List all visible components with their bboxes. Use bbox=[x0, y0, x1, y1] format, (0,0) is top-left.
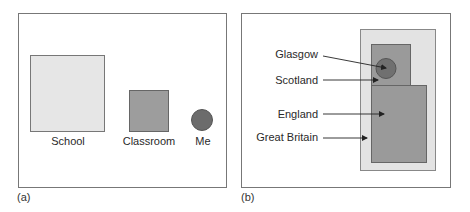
panel-b: Glasgow Scotland England Great Britain (… bbox=[241, 14, 451, 204]
me-circle bbox=[192, 110, 213, 131]
classroom-label: Classroom bbox=[123, 135, 176, 147]
great-britain-label: Great Britain bbox=[256, 131, 318, 143]
panel-a: School Classroom Me (a) bbox=[17, 14, 227, 204]
panel-a-caption: (a) bbox=[17, 191, 30, 203]
school-square bbox=[31, 56, 105, 132]
england-rect bbox=[372, 86, 427, 163]
school-label: School bbox=[51, 135, 85, 147]
me-label: Me bbox=[195, 135, 210, 147]
classroom-square bbox=[130, 91, 169, 132]
diagram-canvas: School Classroom Me (a) Glasgow Scotland… bbox=[0, 0, 470, 212]
panel-b-caption: (b) bbox=[241, 191, 254, 203]
glasgow-label: Glasgow bbox=[275, 48, 318, 60]
england-label: England bbox=[278, 108, 318, 120]
scotland-label: Scotland bbox=[275, 74, 318, 86]
glasgow-circle bbox=[376, 59, 396, 79]
